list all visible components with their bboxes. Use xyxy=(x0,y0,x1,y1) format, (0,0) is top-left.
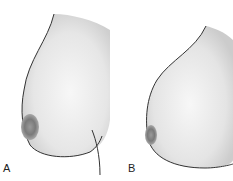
panel-label-b: B xyxy=(128,163,135,174)
panel-b-areola xyxy=(145,125,157,145)
panel-a-shape xyxy=(21,14,110,175)
panel-label-a: A xyxy=(3,163,10,174)
figure-illustration xyxy=(0,0,233,181)
panel-a-areola xyxy=(21,114,39,140)
panel-b-shape xyxy=(145,26,233,168)
